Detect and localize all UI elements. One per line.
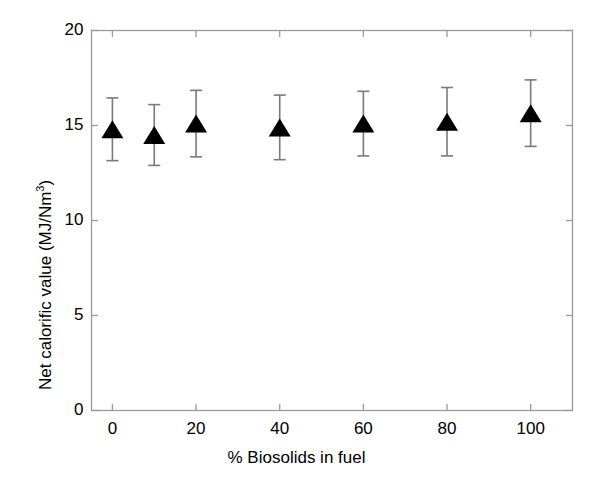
chart-figure: Net calorific value (MJ/Nm3) % Biosolids…: [0, 0, 593, 483]
chart-canvas: [0, 0, 593, 483]
x-tick-label: 40: [240, 419, 320, 439]
y-tick-label: 15: [28, 115, 84, 135]
y-tick-label: 20: [28, 20, 84, 40]
y-tick-label: 5: [28, 305, 84, 325]
x-tick-label: 20: [156, 419, 236, 439]
x-axis-label: % Biosolids in fuel: [0, 448, 593, 468]
x-tick-label: 100: [491, 419, 571, 439]
x-tick-label: 0: [72, 419, 152, 439]
x-tick-label: 80: [407, 419, 487, 439]
y-tick-label: 10: [28, 210, 84, 230]
y-axis-label-superscript: 3: [34, 186, 46, 192]
plot-box: [92, 31, 573, 411]
y-tick-label: 0: [28, 400, 84, 420]
y-axis-label-tail: ): [36, 180, 55, 186]
x-tick-label: 60: [323, 419, 403, 439]
